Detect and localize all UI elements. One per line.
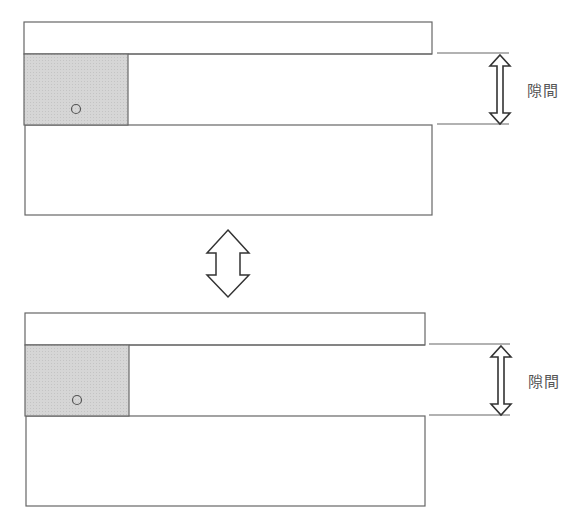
bottom-panel <box>25 313 511 506</box>
bottom-gap-label: 隙間 <box>528 370 560 391</box>
double-vertical-arrow-icon <box>207 230 249 297</box>
bottom-gap-arrow-icon <box>491 346 511 415</box>
bottom-lower-plate <box>26 416 425 506</box>
top-panel <box>24 22 510 215</box>
bottom-upper-plate <box>25 313 425 345</box>
top-lower-plate <box>25 125 432 215</box>
top-gap-block <box>24 54 128 125</box>
top-gap-label: 隙間 <box>527 79 559 100</box>
top-gap-arrow-icon <box>490 55 510 124</box>
top-upper-plate <box>24 22 432 54</box>
gap-diagram <box>0 0 587 526</box>
bottom-gap-block <box>25 345 129 416</box>
